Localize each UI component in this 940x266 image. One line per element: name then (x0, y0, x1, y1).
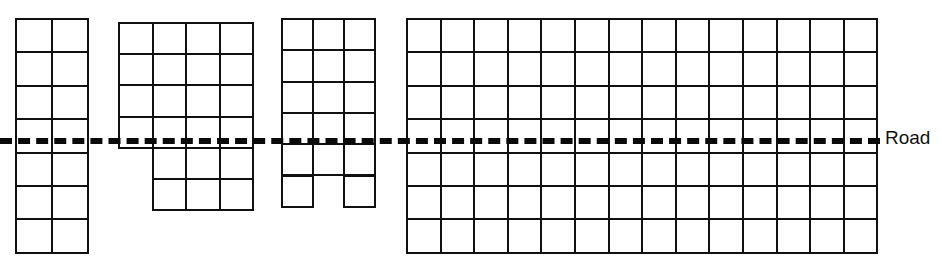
parcel-cell (312, 18, 345, 51)
parcel-cell (809, 85, 845, 120)
parcel-cell (51, 218, 89, 253)
parcel-cell (51, 118, 89, 153)
road-line (0, 138, 880, 144)
parcel-cell (675, 118, 711, 153)
parcel-cell (15, 85, 53, 120)
block-1 (15, 18, 87, 252)
parcel-cell (473, 185, 509, 220)
parcel-cell (708, 18, 744, 53)
parcel-cell (343, 18, 376, 51)
parcel-cell (51, 18, 89, 53)
parcel-cell (507, 218, 543, 253)
parcel-cell (776, 185, 812, 220)
parcel-cell (406, 152, 442, 187)
parcel-cell (507, 118, 543, 153)
road-label: Road (885, 128, 930, 147)
parcel-cell (708, 85, 744, 120)
parcel-cell (219, 147, 255, 180)
parcel-cell (608, 85, 644, 120)
parcel-cell (406, 185, 442, 220)
parcel-cell (843, 85, 879, 120)
parcel-cell (574, 85, 610, 120)
parcel-cell (343, 143, 376, 176)
parcel-cell (742, 85, 778, 120)
parcel-cell (440, 218, 476, 253)
parcel-cell (219, 53, 255, 86)
parcel-cell (641, 152, 677, 187)
parcel-cell (608, 218, 644, 253)
parcel-cell (608, 51, 644, 86)
parcel-cell (152, 147, 188, 180)
parcel-cell (608, 118, 644, 153)
parcel-cell (15, 51, 53, 86)
parcel-cell (809, 218, 845, 253)
parcel-cell (843, 18, 879, 53)
parcel-cell (641, 85, 677, 120)
parcel-cell (406, 51, 442, 86)
parcel-cell (708, 218, 744, 253)
parcel-cell (406, 118, 442, 153)
parcel-cell (312, 81, 345, 114)
parcel-cell (118, 53, 154, 86)
parcel-cell (675, 18, 711, 53)
parcel-cell (641, 118, 677, 153)
parcel-cell (641, 18, 677, 53)
parcel-cell (641, 51, 677, 86)
parcel-cell (343, 175, 376, 208)
parcel-cell (51, 51, 89, 86)
parcel-cell (742, 218, 778, 253)
parcel-cell (51, 152, 89, 187)
parcel-cell (742, 18, 778, 53)
parcel-cell (440, 118, 476, 153)
parcel-cell (675, 152, 711, 187)
parcel-cell (152, 22, 188, 55)
parcel-cell (540, 218, 576, 253)
parcel-cell (507, 85, 543, 120)
parcel-cell (507, 18, 543, 53)
parcel-cell (540, 51, 576, 86)
parcel-cell (312, 49, 345, 82)
parcel-cell (708, 118, 744, 153)
parcel-cell (742, 118, 778, 153)
parcel-cell (185, 147, 221, 180)
parcel-cell (473, 18, 509, 53)
parcel-cell (15, 152, 53, 187)
parcel-cell (281, 81, 314, 114)
parcel-cell (51, 85, 89, 120)
parcel-cell (776, 18, 812, 53)
parcel-cell (608, 18, 644, 53)
parcel-cell (185, 53, 221, 86)
parcel-cell (776, 85, 812, 120)
parcel-cell (574, 51, 610, 86)
parcel-cell (15, 118, 53, 153)
parcel-cell (473, 51, 509, 86)
parcel-cell (343, 81, 376, 114)
parcel-cell (742, 51, 778, 86)
parcel-cell (219, 22, 255, 55)
parcel-cell (281, 143, 314, 176)
parcel-cell (776, 152, 812, 187)
block-2 (118, 22, 252, 209)
parcel-cell (312, 143, 345, 176)
parcel-cell (507, 152, 543, 187)
parcel-cell (675, 218, 711, 253)
parcel-cell (185, 178, 221, 211)
parcel-cell (343, 49, 376, 82)
parcel-cell (473, 85, 509, 120)
parcel-cell (152, 178, 188, 211)
parcel-cell (440, 18, 476, 53)
parcel-cell (540, 185, 576, 220)
parcel-cell (440, 185, 476, 220)
parcel-cell (574, 18, 610, 53)
parcel-cell (809, 51, 845, 86)
parcel-cell (809, 118, 845, 153)
parcel-cell (708, 152, 744, 187)
parcel-cell (708, 51, 744, 86)
parcel-cell (742, 152, 778, 187)
parcel-cell (540, 152, 576, 187)
parcel-cell (809, 152, 845, 187)
parcel-cell (540, 85, 576, 120)
parcel-cell (185, 84, 221, 117)
parcel-cell (406, 85, 442, 120)
parcel-cell (51, 185, 89, 220)
